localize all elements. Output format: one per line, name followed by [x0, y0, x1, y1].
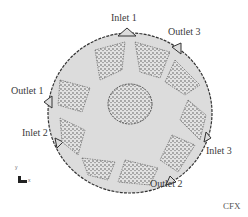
label-outlet-2: Outlet 2 [150, 178, 183, 189]
central-core [108, 84, 152, 124]
label-inlet-1: Inlet 1 [111, 12, 137, 23]
label-outlet-1: Outlet 1 [11, 85, 44, 96]
label-inlet-3: Inlet 3 [206, 145, 232, 156]
label-outlet-3: Outlet 3 [168, 26, 201, 37]
axis-triad: y x [15, 164, 41, 186]
axis-x-label: x [28, 177, 31, 183]
software-tag: CFX [223, 201, 241, 211]
label-inlet-2: Inlet 2 [22, 127, 48, 138]
